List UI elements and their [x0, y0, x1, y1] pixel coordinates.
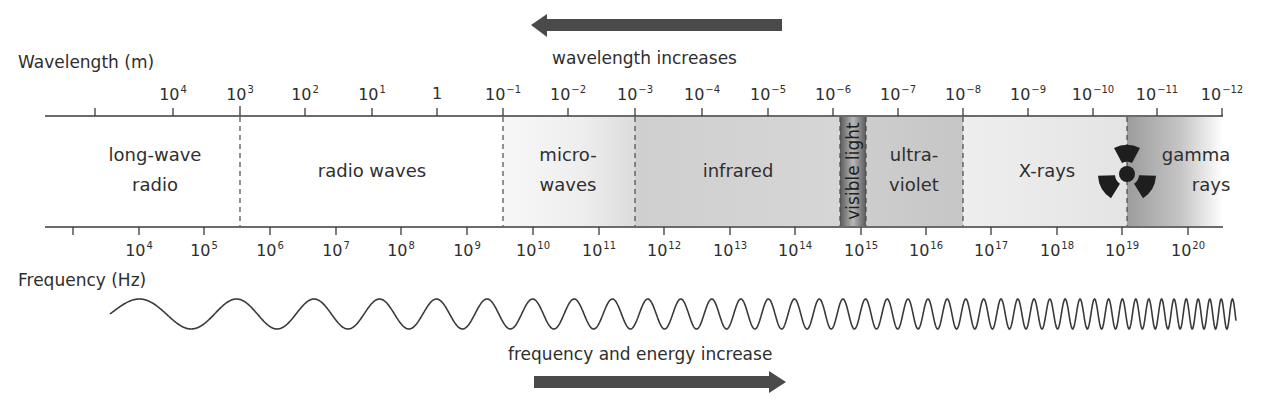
frequency-axis-tick-label: 107	[322, 240, 350, 260]
frequency-axis-tick-label: 1017	[974, 240, 1008, 260]
band-label-visible-light: visible light	[843, 122, 863, 219]
wavelength-axis-tick-label: 10−6	[815, 84, 851, 104]
frequency-axis-tick-label: 1012	[647, 240, 681, 260]
wavelength-axis-tick-label: 10−8	[945, 84, 981, 104]
wavelength-increases-caption: wavelength increases	[552, 48, 737, 68]
frequency-axis-tick-label: 104	[125, 240, 153, 260]
wavelength-axis-tick-label: 10−2	[550, 84, 586, 104]
frequency-axis-tick-label: 108	[387, 240, 415, 260]
band-label-radio-waves: radio waves	[318, 156, 426, 186]
wavelength-axis-tick-label: 10−9	[1010, 84, 1046, 104]
wavelength-axis-tick-label: 102	[291, 84, 319, 104]
frequency-axis-tick-label: 1011	[582, 240, 616, 260]
band-label-microwaves: micro- waves	[539, 140, 596, 200]
wavelength-axis-tick-label: 103	[226, 84, 254, 104]
frequency-axis-tick-label: 1015	[844, 240, 878, 260]
frequency-axis-tick-label: 105	[190, 240, 218, 260]
frequency-axis-tick-label: 1020	[1171, 240, 1205, 260]
wavelength-ticks	[95, 106, 1222, 116]
wavelength-arrow-icon	[531, 14, 782, 37]
frequency-arrow-icon	[534, 371, 786, 393]
wavelength-axis-tick-label: 101	[358, 84, 386, 104]
band-label-ultraviolet: ultra- violet	[889, 140, 939, 200]
frequency-axis-tick-label: 1014	[778, 240, 812, 260]
frequency-axis-tick-label: 1010	[516, 240, 550, 260]
frequency-increases-caption: frequency and energy increase	[508, 344, 772, 364]
wavelength-axis-tick-label: 10−12	[1201, 84, 1243, 104]
frequency-axis-tick-label: 106	[256, 240, 284, 260]
band-label-long-wave-radio: long-wave radio	[109, 140, 202, 200]
frequency-axis-tick-label: 1013	[713, 240, 747, 260]
band-label-x-rays: X-rays	[1019, 156, 1075, 186]
wavelength-axis-tick-label: 1	[432, 84, 442, 103]
frequency-axis-tick-label: 1016	[909, 240, 943, 260]
wave-curve	[110, 299, 1236, 329]
band-label-infrared: infrared	[703, 156, 774, 186]
wavelength-axis-tick-label: 10−1	[485, 84, 521, 104]
wavelength-axis-tick-label: 10−11	[1136, 84, 1178, 104]
band-fills	[503, 117, 1223, 226]
band-label-gamma-rays: gamma rays	[1162, 140, 1231, 200]
frequency-axis-tick-label: 1018	[1040, 240, 1074, 260]
wavelength-axis-tick-label: 10−4	[684, 84, 720, 104]
wavelength-axis-tick-label: 104	[159, 84, 187, 104]
frequency-axis-tick-label: 1019	[1105, 240, 1139, 260]
wavelength-axis-tick-label: 10−3	[617, 84, 653, 104]
wavelength-axis-title: Wavelength (m)	[18, 52, 154, 72]
wavelength-axis-tick-label: 10−5	[750, 84, 786, 104]
frequency-axis-title: Frequency (Hz)	[18, 270, 146, 290]
wavelength-axis-tick-label: 10−7	[880, 84, 916, 104]
frequency-axis-tick-label: 109	[453, 240, 481, 260]
wavelength-axis-tick-label: 10−10	[1072, 84, 1114, 104]
frequency-ticks	[73, 227, 1188, 235]
